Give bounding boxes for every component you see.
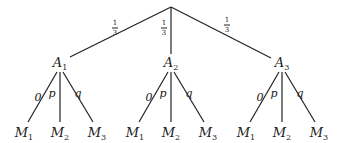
node-subscript: 3 bbox=[212, 133, 217, 142]
leaf-m3: M3 bbox=[310, 126, 328, 142]
node-letter: A bbox=[275, 55, 284, 70]
fraction-denominator: 3 bbox=[225, 27, 229, 34]
node-subscript: 1 bbox=[62, 63, 67, 72]
node-subscript: 3 bbox=[101, 133, 106, 142]
fraction-numerator: 1 bbox=[162, 20, 166, 27]
fraction-numerator: 1 bbox=[113, 20, 117, 27]
node-letter: M bbox=[273, 125, 286, 140]
edge-probability-fraction: 13 bbox=[224, 17, 230, 34]
edge-probability-label: 0 bbox=[35, 92, 42, 103]
node-a2: A2 bbox=[164, 56, 178, 72]
edge-probability-label: 0 bbox=[146, 92, 153, 103]
node-subscript: 2 bbox=[173, 63, 178, 72]
node-subscript: 1 bbox=[139, 133, 144, 142]
node-letter: A bbox=[53, 55, 62, 70]
node-subscript: 1 bbox=[250, 133, 255, 142]
node-subscript: 3 bbox=[284, 63, 289, 72]
edge-probability-label: q bbox=[74, 88, 81, 99]
leaf-m1: M1 bbox=[237, 126, 255, 142]
probability-tree-diagram: 13A1M10M2pM3q13A2M10M2pM3q13A3M10M2pM3q bbox=[0, 0, 343, 143]
fraction-numerator: 1 bbox=[225, 17, 229, 24]
node-letter: M bbox=[237, 125, 250, 140]
edge-probability-label: p bbox=[159, 88, 166, 99]
node-letter: M bbox=[51, 125, 64, 140]
edge-probability-label: p bbox=[48, 88, 55, 99]
node-subscript: 2 bbox=[286, 133, 291, 142]
node-subscript: 1 bbox=[28, 133, 33, 142]
node-subscript: 2 bbox=[64, 133, 69, 142]
root-edge-1 bbox=[70, 7, 171, 57]
node-subscript: 2 bbox=[175, 133, 180, 142]
leaf-m1: M1 bbox=[126, 126, 144, 142]
leaf-m3: M3 bbox=[199, 126, 217, 142]
root-edge-3 bbox=[171, 7, 271, 58]
leaf-m2: M2 bbox=[273, 126, 291, 142]
node-letter: M bbox=[126, 125, 139, 140]
node-a3: A3 bbox=[275, 56, 289, 72]
edge-probability-label: q bbox=[296, 88, 303, 99]
leaf-m2: M2 bbox=[162, 126, 180, 142]
edge-probability-label: q bbox=[185, 88, 192, 99]
node-a1: A1 bbox=[53, 56, 67, 72]
node-subscript: 3 bbox=[323, 133, 328, 142]
fraction-denominator: 3 bbox=[162, 30, 166, 37]
node-letter: M bbox=[15, 125, 28, 140]
edge-probability-fraction: 13 bbox=[112, 20, 118, 37]
leaf-m3: M3 bbox=[88, 126, 106, 142]
fraction-denominator: 3 bbox=[113, 30, 117, 37]
edge-probability-label: p bbox=[270, 88, 277, 99]
node-letter: A bbox=[164, 55, 173, 70]
leaf-m2: M2 bbox=[51, 126, 69, 142]
edge-probability-label: 0 bbox=[257, 92, 264, 103]
node-letter: M bbox=[310, 125, 323, 140]
node-letter: M bbox=[199, 125, 212, 140]
node-letter: M bbox=[88, 125, 101, 140]
leaf-m1: M1 bbox=[15, 126, 33, 142]
edge-probability-fraction: 13 bbox=[161, 20, 167, 37]
node-letter: M bbox=[162, 125, 175, 140]
